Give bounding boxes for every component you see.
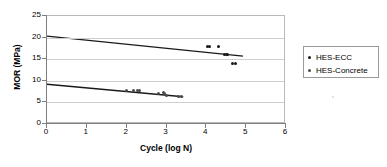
legend-entry: HES-ECC [308,52,352,63]
gridline [47,81,284,82]
x-tick-label: 4 [195,128,215,136]
data-point [125,89,128,92]
plot-area [46,15,285,123]
series-trendlines [47,16,286,124]
data-point [234,62,237,65]
x-tick-label: 2 [116,128,136,136]
legend-label: HES-Concrete [316,66,368,75]
gridline [47,59,284,60]
y-tick-label: 25 [15,11,41,19]
chart-figure: 0510152025 MOR (MPa) Cycle (log N) HES-E… [0,0,387,167]
x-tick-label: 6 [275,128,295,136]
x-axis-title: Cycle (log N) [46,143,286,153]
y-axis-line [46,15,47,124]
y-tick-mark [42,37,46,38]
y-tick-mark [42,58,46,59]
x-tick-mark [205,124,206,128]
legend-label: HES-ECC [316,53,352,62]
chart-legend: HES-ECCHES-Concrete [303,46,379,78]
y-tick-label: 0 [15,119,41,127]
x-tick-label: 5 [235,128,255,136]
gridline [47,38,284,39]
legend-marker-icon [308,69,311,72]
x-tick-mark [166,124,167,128]
x-tick-mark [126,124,127,128]
gridline [47,102,284,103]
legend-marker-icon [308,56,311,59]
data-point [157,92,160,95]
x-tick-label: 0 [36,128,56,136]
x-tick-label: 1 [76,128,96,136]
x-tick-mark [285,124,286,128]
y-tick-mark [42,101,46,102]
y-axis-title: MOR (MPa) [12,22,22,112]
data-point [165,94,168,97]
stray-dot [332,96,334,98]
y-tick-mark [42,15,46,16]
x-tick-mark [86,124,87,128]
data-point [217,45,220,48]
x-tick-mark [245,124,246,128]
x-tick-mark [46,124,47,128]
y-tick-mark [42,80,46,81]
trendline-hes-ecc [47,36,243,56]
x-tick-label: 3 [156,128,176,136]
data-point [132,89,135,92]
legend-entry: HES-Concrete [308,65,368,76]
